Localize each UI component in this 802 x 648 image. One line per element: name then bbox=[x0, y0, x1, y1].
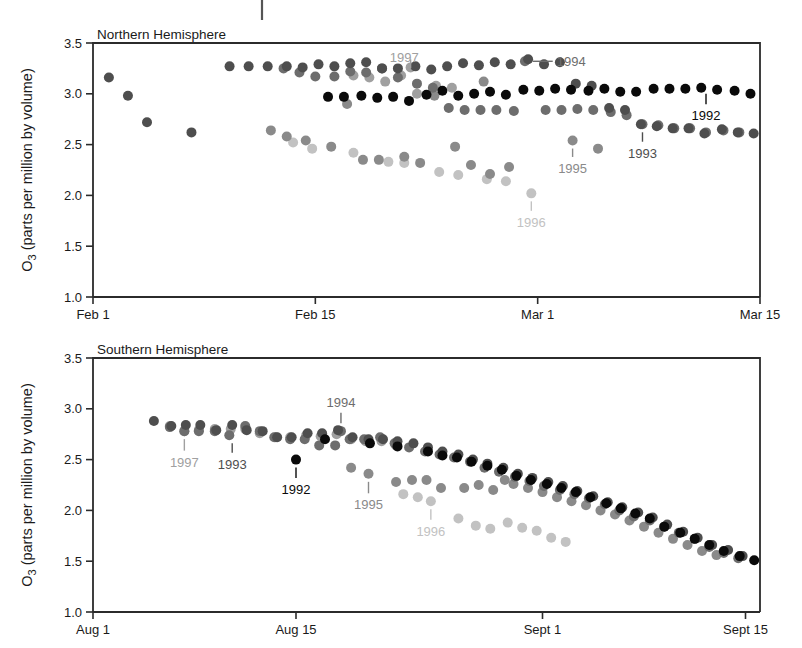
data-point-1993 bbox=[333, 425, 343, 435]
data-point-1993 bbox=[258, 426, 268, 436]
data-point-1992 bbox=[485, 87, 495, 97]
data-point-1993 bbox=[104, 73, 114, 83]
data-point-1992 bbox=[497, 465, 507, 475]
data-point-1992 bbox=[404, 96, 414, 106]
data-point-1993 bbox=[361, 57, 371, 67]
y-axis-title-rest: (parts per million by volume) bbox=[19, 383, 35, 569]
data-point-1992 bbox=[630, 508, 640, 518]
data-point-1995 bbox=[450, 142, 460, 152]
data-point-1995 bbox=[391, 477, 401, 487]
y-tick-label: 1.0 bbox=[64, 290, 82, 305]
data-point-1995 bbox=[399, 152, 409, 162]
data-point-1993 bbox=[181, 420, 191, 430]
data-point-1996 bbox=[503, 518, 513, 528]
data-point-1995 bbox=[374, 155, 384, 165]
data-point-1993 bbox=[733, 127, 743, 137]
figure-canvas: 3.53.02.52.01.51.0Feb 1Feb 15Mar 1Mar 15… bbox=[0, 0, 802, 648]
y-axis-title-main: O bbox=[19, 261, 35, 272]
data-point-1992 bbox=[320, 434, 330, 444]
data-point-1995 bbox=[474, 480, 484, 490]
y-tick-label: 1.5 bbox=[64, 239, 82, 254]
data-point-1992 bbox=[583, 86, 593, 96]
data-point-1992 bbox=[735, 551, 745, 561]
data-point-1993 bbox=[636, 119, 646, 129]
data-point-1993 bbox=[263, 61, 273, 71]
data-point-1996 bbox=[426, 496, 436, 506]
data-point-1996 bbox=[532, 526, 542, 536]
data-point-1993 bbox=[668, 123, 678, 133]
annotation-label-1997: 1997 bbox=[170, 455, 199, 470]
x-tick-label: Feb 1 bbox=[76, 307, 109, 322]
data-point-1992 bbox=[323, 92, 333, 102]
data-point-1992 bbox=[372, 93, 382, 103]
y-tick-label: 2.5 bbox=[64, 137, 82, 152]
annotation-label-1994: 1994 bbox=[326, 395, 355, 410]
data-point-1992 bbox=[469, 89, 479, 99]
data-point-1992 bbox=[365, 438, 375, 448]
x-tick-label: Feb 15 bbox=[295, 307, 335, 322]
data-point-1997 bbox=[412, 89, 422, 99]
annotation-label-1995: 1995 bbox=[558, 161, 587, 176]
annotation-label-1995: 1995 bbox=[354, 497, 383, 512]
data-point-1993 bbox=[699, 128, 709, 138]
data-point-1993 bbox=[298, 62, 308, 72]
data-point-1995 bbox=[422, 475, 432, 485]
data-point-1992 bbox=[615, 87, 625, 97]
data-point-1992 bbox=[645, 514, 655, 524]
data-point-1994 bbox=[412, 79, 422, 89]
data-point-1996 bbox=[501, 176, 511, 186]
data-point-1995 bbox=[593, 144, 603, 154]
data-point-1993 bbox=[227, 420, 237, 430]
data-point-1996 bbox=[383, 157, 393, 167]
data-point-1993 bbox=[426, 64, 436, 74]
data-point-1992 bbox=[631, 87, 641, 97]
data-point-1995 bbox=[301, 136, 311, 146]
data-point-1995 bbox=[346, 463, 356, 473]
y-tick-label: 3.0 bbox=[64, 86, 82, 101]
data-point-1992 bbox=[452, 453, 462, 463]
data-point-1992 bbox=[388, 92, 398, 102]
data-point-1995 bbox=[459, 483, 469, 493]
data-point-1992 bbox=[675, 528, 685, 538]
data-point-1992 bbox=[730, 86, 740, 96]
data-point-1992 bbox=[437, 86, 447, 96]
data-point-1994 bbox=[224, 430, 234, 440]
data-point-1993 bbox=[620, 105, 630, 115]
data-point-1995 bbox=[504, 162, 514, 172]
data-point-1994 bbox=[329, 72, 339, 82]
data-point-1992 bbox=[534, 86, 544, 96]
data-point-1992 bbox=[566, 85, 576, 95]
data-point-1995 bbox=[488, 485, 498, 495]
data-point-1995 bbox=[568, 136, 578, 146]
data-point-1993 bbox=[142, 117, 152, 127]
data-point-1992 bbox=[453, 91, 463, 101]
data-point-1995 bbox=[407, 475, 417, 485]
data-point-1993 bbox=[166, 421, 176, 431]
data-point-1993 bbox=[242, 425, 252, 435]
data-point-1994 bbox=[310, 72, 320, 82]
data-point-1994 bbox=[330, 440, 340, 450]
data-point-1995 bbox=[358, 155, 368, 165]
data-point-1992 bbox=[616, 503, 626, 513]
data-point-1992 bbox=[550, 84, 560, 94]
data-point-1995 bbox=[266, 125, 276, 135]
data-point-1993 bbox=[749, 128, 759, 138]
data-point-1992 bbox=[659, 522, 669, 532]
ozone-scatter-figure: 3.53.02.52.01.51.0Feb 1Feb 15Mar 1Mar 15… bbox=[0, 0, 802, 648]
data-point-1992 bbox=[745, 89, 755, 99]
data-point-1995 bbox=[282, 131, 292, 141]
data-point-1992 bbox=[291, 455, 301, 465]
data-point-1996 bbox=[471, 521, 481, 531]
annotation-label-1997: 1997 bbox=[390, 50, 419, 65]
data-point-1994 bbox=[491, 105, 501, 115]
data-point-1992 bbox=[690, 534, 700, 544]
data-point-1994 bbox=[509, 106, 519, 116]
data-point-1997 bbox=[447, 83, 457, 93]
data-point-1993 bbox=[123, 91, 133, 101]
data-point-1995 bbox=[479, 77, 489, 87]
panel-title: Northern Hemisphere bbox=[97, 27, 226, 42]
data-point-1992 bbox=[501, 90, 511, 100]
data-point-1995 bbox=[436, 483, 446, 493]
data-point-1993 bbox=[458, 58, 468, 68]
data-point-1992 bbox=[649, 84, 659, 94]
